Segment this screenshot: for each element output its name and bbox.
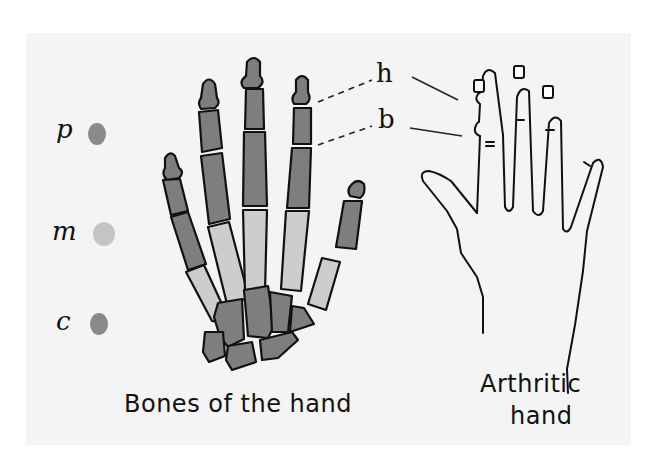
legend-label-p: p xyxy=(56,114,73,144)
dashed-connector-lines xyxy=(318,80,372,145)
legend-swatch-c xyxy=(90,313,108,335)
legend-label-m: m xyxy=(52,216,77,246)
arthritic-hand-outline xyxy=(422,66,603,393)
caption-arthritic-line1: Arthritic xyxy=(480,370,581,398)
caption-bones-of-the-hand: Bones of the hand xyxy=(124,390,352,418)
annotation-h: h xyxy=(376,58,393,88)
caption-arthritic-line2: hand xyxy=(510,402,572,430)
legend-label-c: c xyxy=(56,306,71,336)
legend-swatch-m xyxy=(93,222,115,246)
legend-swatch-p xyxy=(88,123,106,145)
solid-connector-lines xyxy=(410,77,462,136)
annotation-b: b xyxy=(378,104,395,134)
skeleton-hand xyxy=(163,58,365,370)
